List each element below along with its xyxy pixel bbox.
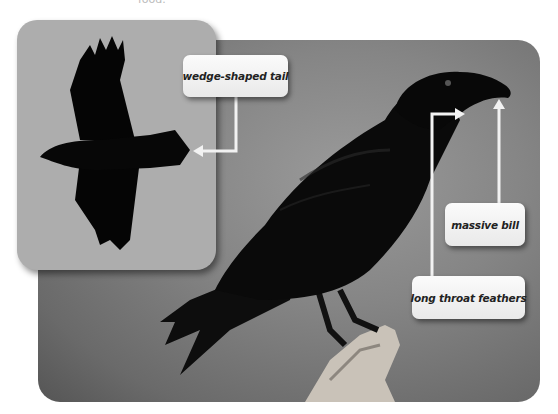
label-text: wedge-shaped tail — [183, 70, 289, 82]
label-text: massive bill — [451, 219, 519, 231]
label-massive-bill: massive bill — [445, 203, 525, 246]
caption-fragment: food. — [138, 0, 166, 6]
label-wedge-shaped-tail: wedge-shaped tail — [183, 55, 288, 97]
label-text: long throat feathers — [411, 292, 527, 304]
label-long-throat-feathers: long throat feathers — [412, 276, 525, 319]
